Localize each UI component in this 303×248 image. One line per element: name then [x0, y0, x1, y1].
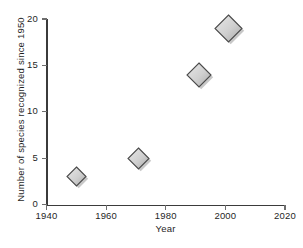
data-point-marker[interactable]: [212, 12, 245, 45]
scatter-chart-figure: 05101520 19401960198020002020 Year Numbe…: [0, 0, 303, 248]
y-tick-20: [42, 18, 47, 19]
x-axis-title: Year: [46, 223, 285, 234]
x-tick-label-1980: 1980: [146, 211, 186, 221]
x-tick-label-2020: 2020: [265, 211, 303, 221]
y-axis-line: [46, 19, 48, 206]
y-tick-10: [42, 111, 47, 112]
data-point-marker[interactable]: [64, 164, 89, 189]
y-tick-15: [42, 65, 47, 66]
y-tick-5: [42, 158, 47, 159]
y-axis-title: Number of species recognized since 1950: [15, 10, 26, 210]
x-tick-label-1940: 1940: [27, 211, 67, 221]
data-point-marker[interactable]: [125, 145, 152, 172]
x-tick-label-1960: 1960: [86, 211, 126, 221]
x-tick-label-2000: 2000: [205, 211, 245, 221]
data-point-marker[interactable]: [184, 60, 214, 90]
